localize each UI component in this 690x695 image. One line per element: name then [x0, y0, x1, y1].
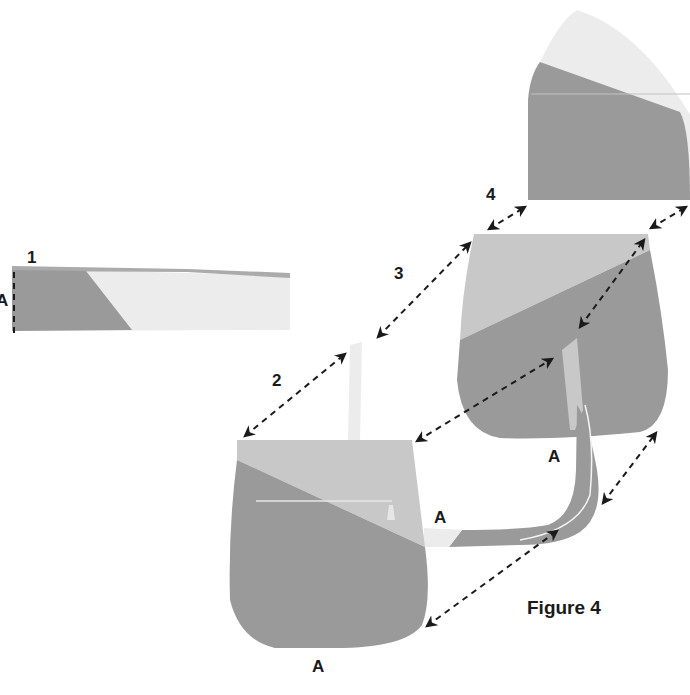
arrow-step-2	[245, 354, 345, 436]
flap-piece	[528, 10, 690, 200]
arrow-step-3	[378, 243, 470, 337]
step-1-label: 1	[27, 248, 36, 267]
step-2-label: 2	[272, 371, 281, 390]
strip-piece	[12, 266, 290, 333]
front-panel-point-a-label: A	[312, 657, 324, 676]
pattern-assembly-diagram: 1 A 4 A A A 2 3 Figure	[0, 0, 690, 695]
front-panel-piece	[230, 440, 428, 648]
figure-caption: Figure 4	[527, 597, 601, 618]
strip-point-a-label: A	[0, 291, 8, 310]
step-3-label: 3	[394, 264, 403, 283]
back-panel-point-a-label: A	[548, 447, 560, 466]
back-panel-piece	[457, 234, 668, 438]
strap-point-a-label: A	[434, 508, 446, 527]
arrow-step-4-right	[651, 207, 686, 228]
arrow-strap-edge	[603, 433, 656, 503]
arrow-step-4-left	[489, 207, 525, 229]
front-panel-tab	[348, 342, 362, 440]
step-4-label: 4	[486, 185, 496, 204]
